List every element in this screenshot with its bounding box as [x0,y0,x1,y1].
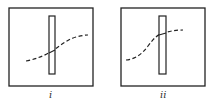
panel-i [9,8,93,86]
panel-i-label: i [49,89,52,100]
panel-i-dashed-curve [26,35,88,61]
panel-ii-dashed-curve [126,30,183,60]
panel-ii-label: ii [160,89,166,100]
panel-ii-bar [159,16,166,74]
diagram-canvas [0,0,212,106]
panel-i-bar [49,16,55,74]
panel-ii [121,8,205,86]
